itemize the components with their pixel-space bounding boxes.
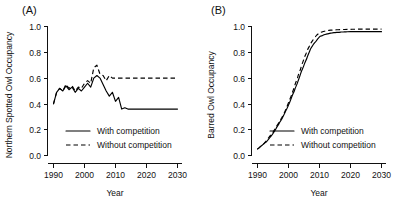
panel-a-ytick-0: 0.0: [29, 151, 41, 161]
panel-a-xtick-1: 2000: [75, 170, 94, 180]
panel-b-ytick-4: 0.8: [233, 48, 245, 58]
panel-a-x-axis-title: Year: [106, 188, 123, 198]
panel-a-chart: (A) Northern Spotted Owl Occupancy 1.0 0…: [0, 0, 198, 207]
panel-b-xtick-4: 2030: [372, 170, 391, 180]
panel-b-legend: With competition Without competition: [270, 126, 376, 150]
panel-a-xtick-4: 2030: [168, 170, 187, 180]
panel-a-ytick-3: 0.6: [29, 74, 41, 84]
panel-b-y-axis-title: Barred Owl Occupancy: [206, 51, 216, 139]
panel-a-legend: With competition Without competition: [66, 126, 172, 150]
panel-a-ytick-4: 0.8: [29, 48, 41, 58]
panel-a-series-with-competition: [54, 76, 178, 110]
panel-b-ytick-0: 0.0: [233, 151, 245, 161]
panel-a-xtick-3: 2020: [137, 170, 156, 180]
panel-a-y-axis: 1.0 0.8 0.6 0.4 0.2 0.0: [29, 22, 47, 161]
panel-b-legend-label-with: With competition: [301, 126, 364, 136]
panel-a-xtick-0: 1990: [44, 170, 63, 180]
panel-a-legend-label-without: Without competition: [97, 140, 172, 150]
panel-a-legend-label-with: With competition: [97, 126, 160, 136]
panel-b-xtick-2: 2010: [310, 170, 329, 180]
panel-b-xtick-3: 2020: [341, 170, 360, 180]
panel-a-xtick-2: 2010: [106, 170, 125, 180]
panel-a-ytick-2: 0.4: [29, 100, 41, 110]
panel-b-y-axis: 1.0 0.8 0.6 0.4 0.2 0.0: [233, 22, 251, 161]
panel-b-xtick-0: 1990: [248, 170, 267, 180]
panel-b-xtick-1: 2000: [279, 170, 298, 180]
panel-b-ytick-3: 0.6: [233, 74, 245, 84]
panel-a-ytick-5: 1.0: [29, 22, 41, 32]
panel-b-x-axis-title: Year: [310, 188, 327, 198]
panel-a: (A) Northern Spotted Owl Occupancy 1.0 0…: [0, 0, 198, 207]
panel-b-ytick-2: 0.4: [233, 100, 245, 110]
figure-container: (A) Northern Spotted Owl Occupancy 1.0 0…: [0, 0, 397, 207]
panel-a-x-axis: 1990 2000 2010 2020 2030 Year: [44, 164, 187, 199]
panel-b-ytick-5: 1.0: [233, 22, 245, 32]
panel-b-x-axis: 1990 2000 2010 2020 2030 Year: [248, 164, 391, 199]
panel-b-legend-label-without: Without competition: [301, 140, 376, 150]
panel-a-y-axis-title: Northern Spotted Owl Occupancy: [4, 31, 14, 158]
panel-a-label: (A): [22, 4, 37, 16]
panel-a-series-without-competition: [54, 65, 178, 104]
panel-b: (B) Barred Owl Occupancy 1.0 0.8 0.6 0.4…: [199, 0, 397, 207]
panel-b-chart: (B) Barred Owl Occupancy 1.0 0.8 0.6 0.4…: [199, 0, 397, 207]
panel-a-ytick-1: 0.2: [29, 125, 41, 135]
panel-b-label: (B): [211, 4, 226, 16]
panel-b-ytick-1: 0.2: [233, 125, 245, 135]
